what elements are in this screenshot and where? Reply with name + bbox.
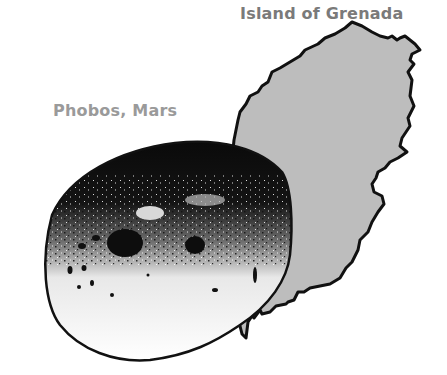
size-comparison-illustration: [0, 0, 447, 375]
phobos-moon-shape: [40, 142, 300, 361]
